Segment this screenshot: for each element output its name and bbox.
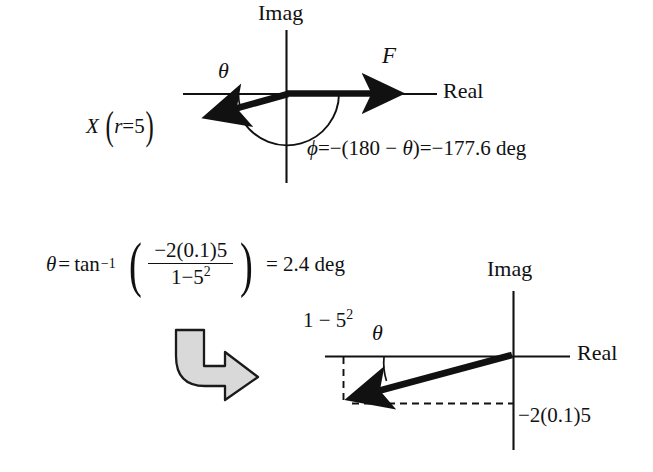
top-imag-axis-label: Imag [258, 2, 303, 24]
paren-close: ) [145, 107, 153, 145]
phi-theta-symbol: θ [402, 136, 412, 160]
phi-symbol: ϕ [307, 136, 318, 160]
top-real-axis-label: Real [443, 80, 483, 102]
top-vector-x-label: X ( r = 5 ) [86, 107, 160, 145]
eq-theta-symbol: θ [46, 254, 56, 275]
top-theta-label: θ [218, 60, 229, 82]
eq-equals: = [58, 254, 70, 275]
bottom-real-component-label: 1 − 52 [303, 310, 353, 331]
top-vector-f-label: F [382, 44, 396, 67]
bottom-real-axis-label: Real [577, 342, 617, 364]
eq-paren-open: ( [129, 235, 142, 294]
bottom-theta-arc [384, 357, 387, 381]
phi-expr-part2: )=−177.6 deg [413, 136, 527, 160]
top-theta-arc [238, 94, 239, 106]
eq-result: = 2.4 deg [266, 254, 345, 275]
eq-denominator-exponent: 2 [204, 264, 211, 279]
r-equals: = [122, 116, 134, 137]
eq-denominator-base: 1−5 [171, 265, 204, 289]
curved-block-arrow [176, 330, 258, 400]
bottom-imag-axis-label: Imag [487, 258, 532, 280]
bottom-theta-label: θ [372, 322, 383, 344]
bottom-imag-component-label: −2(0.1)5 [518, 405, 591, 426]
eq-fraction: −2(0.1)5 1−52 [148, 240, 233, 288]
r-symbol: r [114, 116, 122, 137]
eq-paren-close: ) [240, 235, 253, 294]
bottom-vector-resultant [352, 355, 512, 398]
eq-numerator: −2(0.1)5 [148, 240, 233, 264]
top-vector-x [209, 94, 288, 116]
real-component-base: 1 − 5 [303, 308, 346, 332]
phi-annotation: ϕ=−(180 − θ)=−177.6 deg [307, 138, 526, 159]
eq-denominator: 1−52 [148, 264, 233, 288]
figure-root: Imag Real F θ X ( r = 5 ) ϕ=−(180 − θ)=−… [0, 0, 653, 472]
top-diagram-group [183, 30, 437, 183]
paren-open: ( [105, 107, 113, 145]
real-component-exponent: 2 [346, 307, 353, 322]
phi-expr-part1: =−(180 − [318, 136, 403, 160]
x-symbol: X [86, 116, 99, 137]
r-value: 5 [134, 116, 145, 137]
theta-equation: θ = tan −1 ( −2(0.1)5 1−52 ) = 2.4 deg [46, 235, 345, 294]
eq-tan: tan [74, 254, 100, 275]
